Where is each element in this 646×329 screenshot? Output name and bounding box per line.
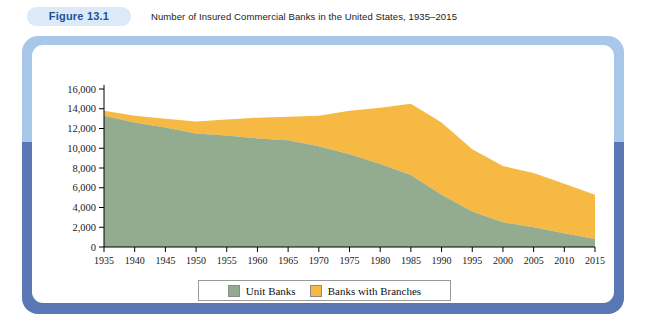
legend-label-banks-with-branches: Banks with Branches [328, 285, 421, 297]
x-tick-label: 1995 [462, 255, 482, 266]
x-tick-label: 1980 [370, 255, 390, 266]
x-tick-label: 1955 [217, 255, 237, 266]
x-tick-label: 1985 [401, 255, 421, 266]
x-tick-label: 1990 [432, 255, 452, 266]
figure-number-badge: Figure 13.1 [27, 7, 131, 26]
y-tick-label: 10,000 [67, 143, 96, 154]
chart-plot-area: 16,00014,00012,00010,0008,0006,0004,0002… [32, 45, 614, 303]
y-tick-label: 14,000 [67, 103, 96, 114]
x-tick-label: 1960 [247, 255, 267, 266]
x-tick-label: 2015 [585, 255, 605, 266]
stacked-area-chart: 16,00014,00012,00010,0008,0006,0004,0002… [32, 45, 614, 303]
x-tick-label: 1950 [186, 255, 206, 266]
x-tick-label: 1970 [309, 255, 329, 266]
legend-item-unit-banks: Unit Banks [228, 285, 296, 297]
x-tick-label: 1965 [278, 255, 298, 266]
x-tick-label: 2000 [493, 255, 513, 266]
legend-label-unit-banks: Unit Banks [246, 285, 296, 297]
figure-title: Number of Insured Commercial Banks in th… [151, 11, 457, 22]
figure-panel: Figure 13.1 Number of Insured Commercial… [0, 0, 646, 329]
legend-swatch-banks-with-branches [310, 285, 322, 297]
y-tick-label: 16,000 [67, 84, 96, 95]
x-tick-label: 1975 [340, 255, 360, 266]
y-tick-label: 12,000 [67, 123, 96, 134]
chart-card: 16,00014,00012,00010,0008,0006,0004,0002… [32, 45, 614, 303]
y-tick-label: 4,000 [72, 202, 96, 213]
y-tick-label: 2,000 [72, 222, 96, 233]
x-tick-label: 1935 [94, 255, 114, 266]
x-tick-label: 1940 [125, 255, 145, 266]
legend-swatch-unit-banks [228, 285, 240, 297]
legend-item-banks-with-branches: Banks with Branches [310, 285, 421, 297]
x-tick-label: 2005 [524, 255, 544, 266]
chart-frame: 16,00014,00012,00010,0008,0006,0004,0002… [22, 36, 624, 314]
x-tick-label: 1945 [155, 255, 175, 266]
chart-legend: Unit Banks Banks with Branches [198, 280, 451, 301]
figure-header: Figure 13.1 Number of Insured Commercial… [0, 0, 646, 32]
y-tick-label: 6,000 [72, 182, 96, 193]
y-tick-label: 8,000 [72, 163, 96, 174]
x-tick-label: 2010 [554, 255, 574, 266]
y-tick-label: 0 [91, 242, 96, 253]
